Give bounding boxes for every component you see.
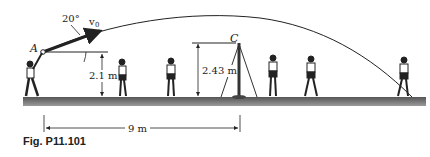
label-net-height: 2.43 m [202,65,237,76]
arrow-left-icon [46,126,50,130]
figure-caption: Fig. P11.101 [23,135,86,147]
angle-arc [84,52,86,62]
arrow-down-icon [100,92,104,96]
label-point-A: A [29,42,38,55]
player-receiver [398,57,408,96]
projectile-diagram: A 20° v 0 2.1 m C 2.43 m 9 m [0,0,430,157]
player-3 [167,58,175,96]
label-release-height: 2.1 m [89,70,118,81]
guy-wire-right [239,44,257,97]
label-horizontal-distance: 9 m [128,123,148,134]
label-velocity-subscript: 0 [95,21,99,29]
label-angle: 20° [62,13,80,24]
player-5 [305,56,317,96]
arrow-down-icon [196,92,200,96]
velocity-arrow [43,31,100,52]
player-4 [269,55,277,96]
player-2 [119,59,126,96]
pole-base [232,95,246,99]
player-thrower [26,53,42,96]
arrow-up-icon [100,54,104,58]
angle-leader [71,25,80,35]
ground [23,97,426,106]
arrow-up-icon [196,44,200,48]
label-velocity: v [88,16,95,27]
arrow-right-icon [234,126,238,130]
